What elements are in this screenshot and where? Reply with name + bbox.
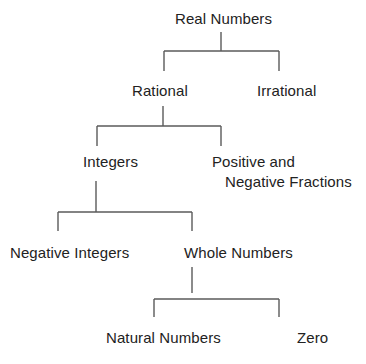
node-negative-integers: Negative Integers [10, 244, 129, 262]
node-whole-numbers: Whole Numbers [184, 244, 293, 262]
number-classification-tree: Real Numbers Rational Irrational Integer… [0, 0, 366, 364]
node-integers: Integers [83, 153, 138, 171]
node-fractions-line1: Positive and [212, 153, 295, 171]
node-irrational: Irrational [257, 82, 316, 100]
node-fractions-line2: Negative Fractions [225, 173, 352, 191]
node-natural-numbers: Natural Numbers [106, 329, 221, 347]
node-real-numbers: Real Numbers [175, 10, 272, 28]
node-zero: Zero [297, 329, 328, 347]
node-rational: Rational [132, 82, 188, 100]
